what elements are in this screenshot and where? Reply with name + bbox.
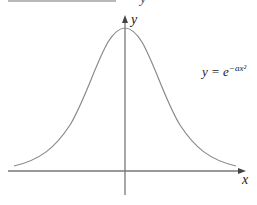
x-axis-label: x — [242, 172, 248, 188]
equation-lhs: y = e — [202, 64, 229, 79]
y-axis-arrow-icon — [122, 15, 128, 23]
y-axis-label: y — [131, 12, 137, 28]
gaussian-diagram — [0, 0, 257, 205]
equation-exponent: −ax² — [229, 63, 246, 73]
equation-label: y = e−ax² — [202, 63, 246, 80]
